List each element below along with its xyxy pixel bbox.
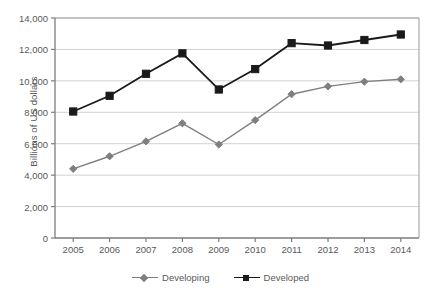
data-point-developing-2012 — [324, 83, 331, 90]
legend-swatch-developed — [234, 273, 260, 283]
legend-item-developing[interactable]: Developing — [132, 272, 210, 283]
legend-swatch-developing — [132, 273, 158, 283]
data-point-developed-2007 — [142, 70, 149, 77]
data-point-developing-2008 — [179, 120, 186, 127]
x-axis-tick-label: 2013 — [354, 244, 375, 255]
data-point-developed-2010 — [252, 65, 259, 72]
x-axis-tick-label: 2008 — [172, 244, 193, 255]
data-point-developing-2005 — [70, 165, 77, 172]
data-point-developed-2014 — [397, 31, 404, 38]
chart-legend: Developing Developed — [0, 272, 441, 283]
series-line-developed — [73, 35, 401, 112]
data-point-developed-2006 — [106, 92, 113, 99]
square-marker-icon — [243, 275, 249, 281]
legend-label-developing: Developing — [162, 272, 210, 283]
data-point-developed-2013 — [361, 36, 368, 43]
data-point-developed-2011 — [288, 40, 295, 47]
x-axis-tick-label: 2009 — [208, 244, 229, 255]
data-point-developed-2009 — [215, 86, 222, 93]
series-markers — [70, 31, 405, 173]
data-point-developing-2006 — [106, 153, 113, 160]
x-axis-tick-label: 2010 — [245, 244, 266, 255]
series-lines — [73, 35, 401, 169]
x-axis-tick-label: 2006 — [99, 244, 120, 255]
data-point-developed-2012 — [324, 42, 331, 49]
x-axis-tick-label: 2007 — [135, 244, 156, 255]
series-line-developing — [73, 79, 401, 169]
x-axis-tick-label: 2005 — [63, 244, 84, 255]
x-axis-tick-label: 2011 — [281, 244, 301, 255]
axis-lines — [51, 18, 419, 242]
gridlines — [55, 18, 419, 207]
line-chart: Billions of US dollars 02,0004,0006,0008… — [0, 0, 441, 299]
x-axis-tick-label: 2012 — [317, 244, 338, 255]
legend-item-developed[interactable]: Developed — [234, 272, 309, 283]
data-point-developed-2008 — [179, 50, 186, 57]
legend-label-developed: Developed — [264, 272, 309, 283]
x-axis-tick-label: 2014 — [390, 244, 411, 255]
diamond-marker-icon — [140, 273, 148, 281]
data-point-developing-2014 — [397, 76, 404, 83]
data-point-developed-2005 — [70, 108, 77, 115]
data-point-developing-2013 — [361, 78, 368, 85]
